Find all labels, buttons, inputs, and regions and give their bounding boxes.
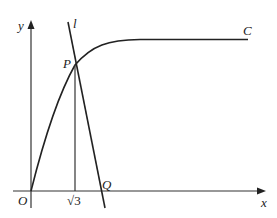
line-l-label: l <box>73 17 77 30</box>
origin-label: O <box>18 194 27 207</box>
point-p-label: P <box>63 57 71 70</box>
line-l <box>68 22 105 208</box>
x-axis-arrow-icon <box>257 188 266 195</box>
diagram-canvas <box>0 0 277 218</box>
x-axis-label: x <box>261 196 267 209</box>
curve-c-label: C <box>243 24 252 37</box>
y-axis-label: y <box>18 19 24 32</box>
y-axis-arrow-icon <box>28 20 35 29</box>
sqrt3-tick-label: √3 <box>67 194 81 207</box>
point-q-label: Q <box>102 178 111 191</box>
